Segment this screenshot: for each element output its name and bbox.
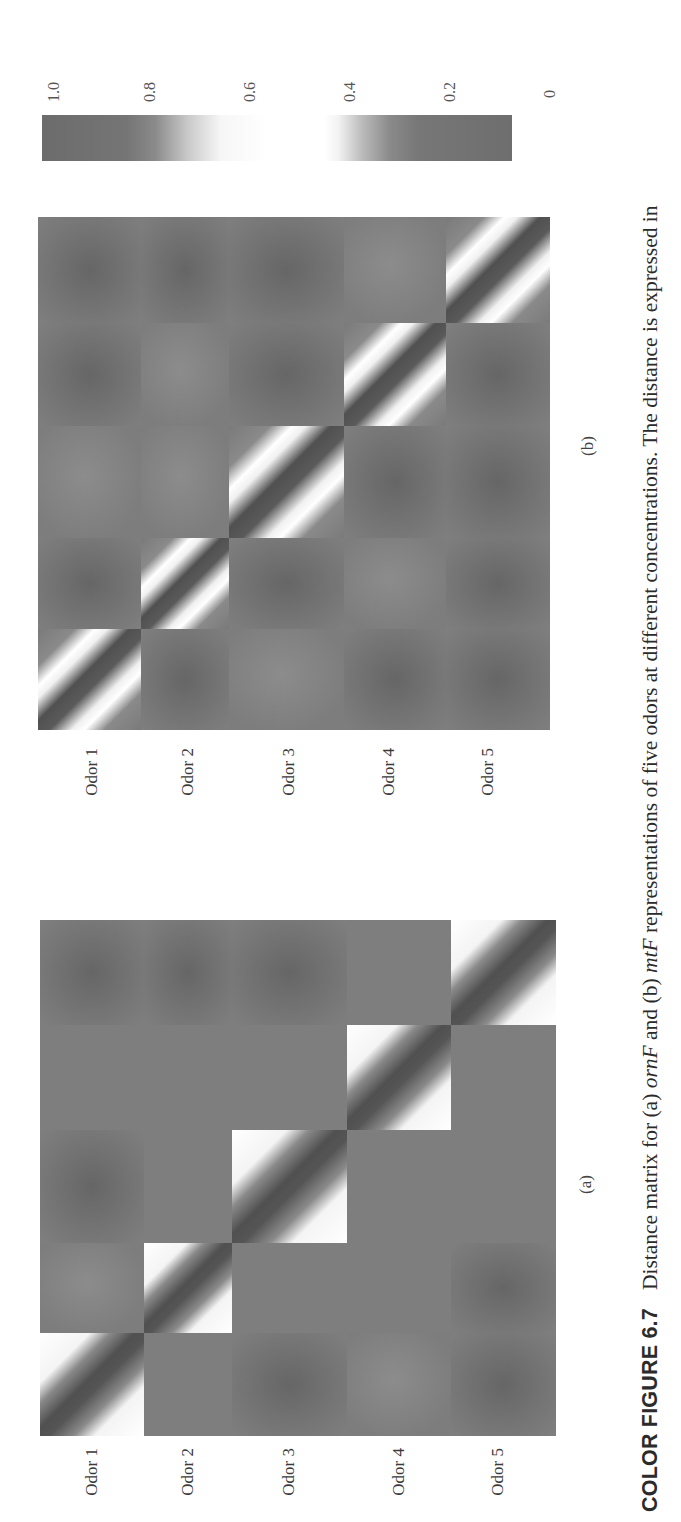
caption-italic-ornf: ornF — [638, 1045, 662, 1088]
matrix-a-block-3-5 — [232, 920, 347, 1025]
matrix-a-block-5-5 — [451, 920, 556, 1025]
matrix-a-block-2-4 — [144, 1025, 232, 1130]
matrix-a-block-3-1 — [232, 1333, 347, 1436]
matrix-b-block-3-2 — [229, 538, 344, 629]
colorbar-tick-0: 0 — [541, 90, 559, 98]
colorbar-tick-1-0: 1.0 — [45, 82, 63, 102]
matrix-b-block-4-3 — [344, 426, 446, 538]
panel-b-row-label-odor-5: Odor 5 — [478, 748, 498, 810]
panel-b-label: (b) — [578, 436, 598, 456]
matrix-b-block-3-5 — [229, 217, 344, 323]
matrix-a-block-2-2 — [144, 1243, 232, 1333]
panel-b-row-label-odor-4: Odor 4 — [379, 748, 399, 810]
matrix-b-block-5-2 — [446, 538, 550, 629]
matrix-a-block-2-5 — [144, 920, 232, 1025]
matrix-b-block-1-3 — [38, 426, 141, 538]
matrix-a-block-4-1 — [347, 1333, 451, 1436]
matrix-a-block-2-3 — [144, 1130, 232, 1243]
matrix-a-block-4-5 — [347, 920, 451, 1025]
matrix-b-block-3-4 — [229, 323, 344, 426]
colorbar-tick-0-2: 0.2 — [441, 82, 459, 102]
matrix-b-block-5-3 — [446, 426, 550, 538]
panel-b-row-label-odor-1: Odor 1 — [82, 748, 102, 810]
matrix-a-block-5-1 — [451, 1333, 556, 1436]
panel-a-row-label-odor-1: Odor 1 — [82, 1448, 102, 1510]
matrix-b-block-4-2 — [344, 538, 446, 629]
matrix-b-block-1-4 — [38, 323, 141, 426]
matrix-a-block-2-1 — [144, 1333, 232, 1436]
caption-text-2: and (b) — [638, 973, 662, 1045]
matrix-b-block-5-1 — [446, 629, 550, 730]
matrix-b-block-3-1 — [229, 629, 344, 730]
figure-caption: COLOR FIGURE 6.7Distance matrix for (a) … — [636, 2, 664, 1512]
matrix-a-block-4-4 — [347, 1025, 451, 1130]
matrix-a-block-1-2 — [40, 1243, 144, 1333]
colorbar — [42, 115, 512, 161]
distance-matrix-a — [40, 920, 556, 1436]
matrix-a-block-4-2 — [347, 1243, 451, 1333]
colorbar-tick-0-8: 0.8 — [141, 82, 159, 102]
matrix-a-block-5-2 — [451, 1243, 556, 1333]
matrix-b-block-1-2 — [38, 538, 141, 629]
matrix-b-block-2-4 — [141, 323, 229, 426]
figure-page: Odor 1 Odor 2 Odor 3 Odor 4 Odor 5 — [0, 0, 681, 1522]
matrix-a-block-3-4 — [232, 1025, 347, 1130]
distance-matrix-b — [38, 217, 550, 730]
matrix-b-block-5-5 — [446, 217, 550, 323]
matrix-a-block-1-4 — [40, 1025, 144, 1130]
matrix-a-block-4-3 — [347, 1130, 451, 1243]
matrix-b-block-4-1 — [344, 629, 446, 730]
panel-a-label: (a) — [576, 1175, 596, 1194]
matrix-a-block-5-4 — [451, 1025, 556, 1130]
matrix-b-block-4-4 — [344, 323, 446, 426]
colorbar-tick-0-4: 0.4 — [341, 82, 359, 102]
panel-a-row-label-odor-5: Odor 5 — [488, 1448, 508, 1510]
matrix-b-block-5-4 — [446, 323, 550, 426]
matrix-b-block-2-2 — [141, 538, 229, 629]
matrix-b-block-2-1 — [141, 629, 229, 730]
matrix-b-block-1-1 — [38, 629, 141, 730]
matrix-a-block-3-3 — [232, 1130, 347, 1243]
panel-a-row-label-odor-3: Odor 3 — [279, 1448, 299, 1510]
caption-text-1: Distance matrix for (a) — [638, 1088, 662, 1290]
matrix-b-block-1-5 — [38, 217, 141, 323]
matrix-a-block-1-5 — [40, 920, 144, 1025]
caption-text-3: representations of five odors at differe… — [638, 205, 662, 938]
matrix-a-block-3-2 — [232, 1243, 347, 1333]
panel-b-row-label-odor-2: Odor 2 — [178, 748, 198, 810]
matrix-b-block-2-5 — [141, 217, 229, 323]
panel-a-row-label-odor-4: Odor 4 — [389, 1448, 409, 1510]
matrix-a-block-5-3 — [451, 1130, 556, 1243]
matrix-a-block-1-3 — [40, 1130, 144, 1243]
matrix-b-block-4-5 — [344, 217, 446, 323]
caption-italic-mtf: mtF — [638, 938, 662, 973]
colorbar-tick-0-6: 0.6 — [241, 82, 259, 102]
panel-b-row-label-odor-3: Odor 3 — [279, 748, 299, 810]
figure-number: COLOR FIGURE 6.7 — [638, 1308, 662, 1512]
matrix-b-block-3-3 — [229, 426, 344, 538]
panel-a-row-label-odor-2: Odor 2 — [178, 1448, 198, 1510]
matrix-a-block-1-1 — [40, 1333, 144, 1436]
matrix-b-block-2-3 — [141, 426, 229, 538]
